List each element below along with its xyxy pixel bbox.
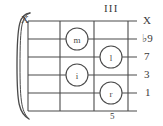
string-label-1: X: [143, 15, 151, 26]
finger-dot-r-label: r: [110, 89, 113, 99]
string-label-3: 7: [144, 51, 150, 62]
fret-number-label: 5: [110, 112, 115, 121]
string-label-2: ♭9: [142, 33, 153, 44]
finger-dot-m-label: m: [73, 35, 80, 45]
position-label: III: [104, 3, 119, 14]
string-label-5: 1: [145, 87, 151, 98]
mute-marker-label: X: [21, 14, 29, 25]
string-label-4: 3: [144, 69, 150, 80]
chord-diagram: m l i r III X 5 X ♭9 7 3 1: [0, 0, 163, 126]
